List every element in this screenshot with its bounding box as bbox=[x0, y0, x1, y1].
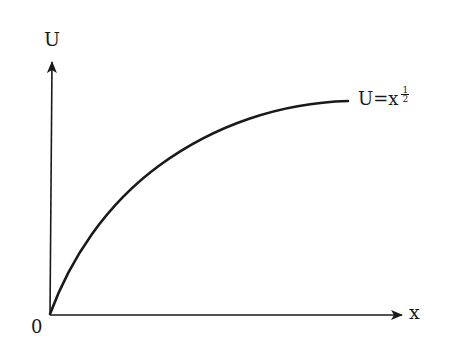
utility-curve bbox=[50, 101, 348, 314]
curve-label-base: U=x bbox=[358, 88, 398, 109]
exponent-fraction: 12 bbox=[401, 86, 409, 103]
y-axis-label: U bbox=[44, 30, 60, 49]
chart-canvas bbox=[0, 0, 449, 363]
origin-label: 0 bbox=[31, 318, 42, 336]
exponent-denominator: 2 bbox=[401, 95, 409, 103]
x-axis-label: x bbox=[409, 303, 420, 322]
curve-label: U=x12 bbox=[358, 90, 409, 108]
y-axis bbox=[50, 62, 52, 315]
